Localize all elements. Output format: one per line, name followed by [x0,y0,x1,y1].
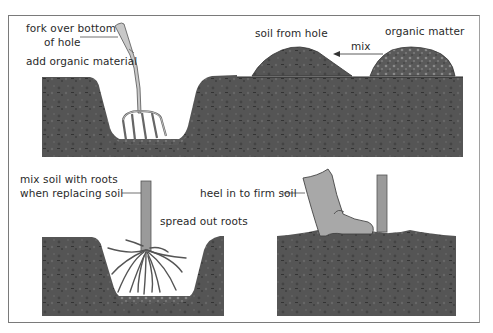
label-heel-in: heel in to firm soil [200,187,297,199]
label-organic-matter: organic matter [385,25,464,37]
label-add-organic: add organic material [26,55,137,67]
organic-matter-mound-icon [370,47,455,76]
top-soil [42,75,463,157]
garden-fork-icon [115,23,166,140]
label-fork-line1: fork over bottom [26,22,116,34]
soil-mound-icon [252,47,352,76]
bottom-right-soil [277,226,456,316]
boot-icon [303,169,373,236]
label-fork-line2: of hole [44,36,81,48]
label-mix-line2: when replacing soil [20,187,123,199]
tree-stem-icon [377,175,387,232]
label-spread-roots: spread out roots [160,215,248,227]
label-mix: mix [351,40,371,52]
label-mix-line1: mix soil with roots [20,173,118,185]
bottom-left-soil [42,236,224,316]
tree-stem-icon [141,181,151,251]
label-soil-from-hole: soil from hole [255,27,328,39]
illustration [0,0,493,333]
